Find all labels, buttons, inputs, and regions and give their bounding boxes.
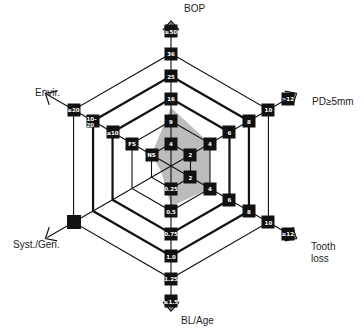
tick-box: ≥20 [67,103,80,116]
axis-label-pd: PD≥5mm [312,96,354,108]
axis-spokes [47,23,295,309]
tick-box: 8 [242,205,255,218]
tick-box: ≥12 [281,227,294,240]
tick-box: ≥1.5 [165,295,178,308]
syst-gen-marker [67,215,81,229]
tick-box: 0.25 [165,182,178,195]
axis-label-bl-age: BL/Age [181,315,214,327]
axis-label-syst-gen: Syst./Gen. [13,239,60,251]
tick-box: 0.75 [165,227,178,240]
tick-box: 8 [242,115,255,128]
tick-box: 10 [262,216,275,229]
tick-box: 6 [223,193,236,206]
tick-box: 6 [223,126,236,139]
tick-box: 4 [165,137,178,150]
tick-box: 9 [165,115,178,128]
tick-box: FS [126,137,139,150]
axis-label-bop: BOP [184,3,205,15]
risk-radar-chart [0,0,364,332]
tick-box: 10-20 [87,115,100,128]
tick-box: NS [145,148,158,161]
tick-box: 1.0 [165,250,178,263]
tick-box: ≤10 [106,126,119,139]
axis-label-envir: Envir. [35,87,60,99]
tick-box: >12 [281,92,294,105]
tick-box: ≥50 [165,25,178,38]
risk-area [152,108,210,207]
tick-box: 4 [203,182,216,195]
risk-polygon [152,108,210,207]
tick-box: 25 [165,70,178,83]
tick-box: 10 [262,103,275,116]
tick-box: 0.5 [165,205,178,218]
tick-box: 2 [184,171,197,184]
tick-box: 16 [165,92,178,105]
tick-box: 2 [184,148,197,161]
tick-box: 4 [203,137,216,150]
tick-box: 36 [165,47,178,60]
tick-box: 1.25 [165,272,178,285]
axis-label-tooth-loss: Tooth loss [311,241,335,265]
